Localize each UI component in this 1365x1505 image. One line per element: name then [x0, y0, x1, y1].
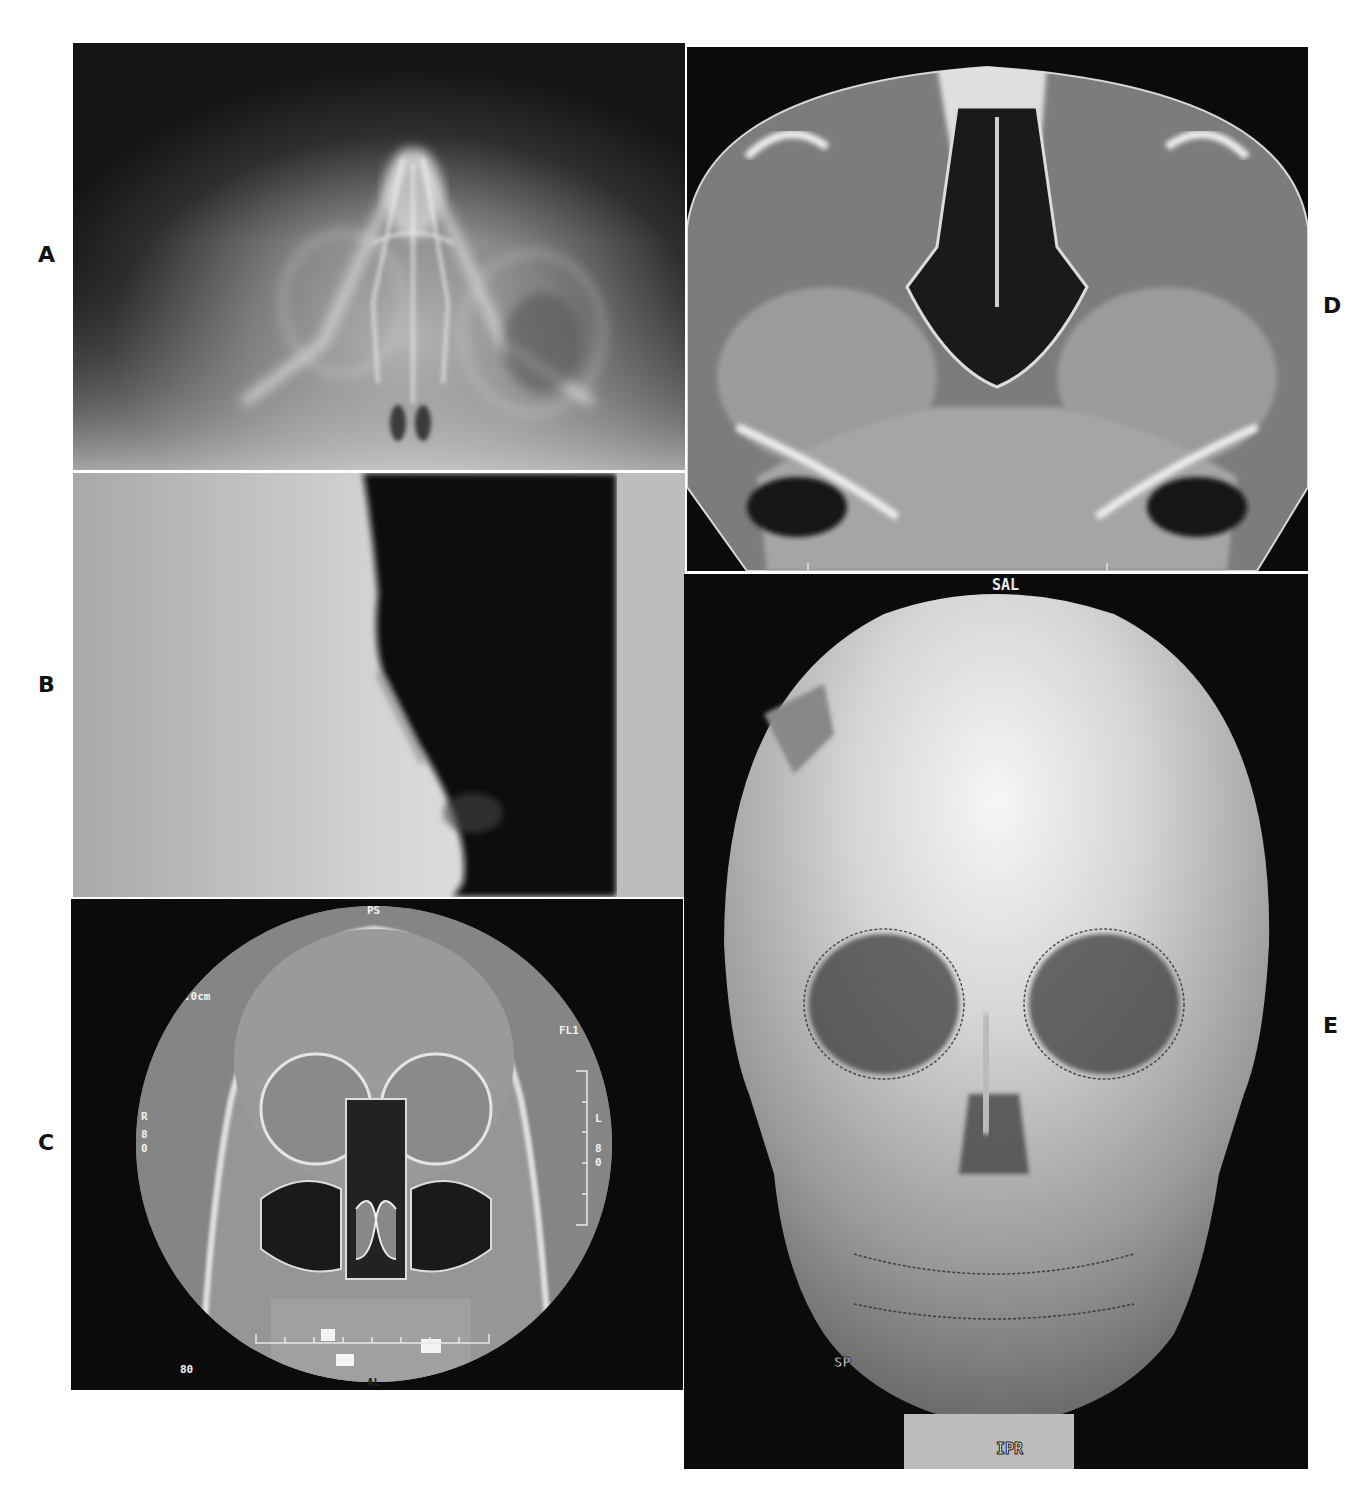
- axial-ct-image: [687, 47, 1308, 571]
- panel-label-d: D: [1323, 293, 1341, 318]
- panel-label-e: E: [1323, 1013, 1338, 1038]
- ct-label-r-0: 0: [141, 1142, 148, 1155]
- waters-view-xray-image: [73, 43, 685, 470]
- panel-a-radiograph: [73, 43, 685, 470]
- panel-c-ct-coronal: PS .0cm FL1 R 8 0 L 8 0 80 AL: [71, 899, 683, 1390]
- ct-label-ps: PS: [367, 904, 380, 917]
- ct-label-sal: SAL: [992, 576, 1019, 594]
- ct-label-l-0: 0: [595, 1156, 602, 1169]
- ct-label-al: AL: [367, 1376, 380, 1389]
- panel-e-3d-reconstruction: SAL SP IPR: [684, 574, 1308, 1469]
- panel-d-ct-axial: [687, 47, 1308, 571]
- panel-label-c: C: [38, 1130, 54, 1155]
- ct-label-scale: .0cm: [184, 990, 211, 1003]
- ct-label-sp: SP: [834, 1354, 851, 1370]
- ct-label-r-8: 8: [141, 1128, 148, 1141]
- ct-label-l: L: [595, 1112, 602, 1125]
- ct-label-80: 80: [180, 1363, 193, 1376]
- ct-label-fl1: FL1: [559, 1024, 579, 1037]
- ct-label-l-8: 8: [595, 1142, 602, 1155]
- panel-b-radiograph: [73, 473, 685, 897]
- panel-label-a: A: [38, 242, 55, 267]
- skull-3d-render-image: [684, 574, 1308, 1469]
- ct-label-r: R: [141, 1110, 148, 1123]
- lateral-nose-xray-image: [73, 473, 685, 897]
- ct-label-ipr: IPR: [996, 1440, 1023, 1458]
- coronal-ct-image: [71, 899, 683, 1390]
- panel-label-b: B: [38, 672, 55, 697]
